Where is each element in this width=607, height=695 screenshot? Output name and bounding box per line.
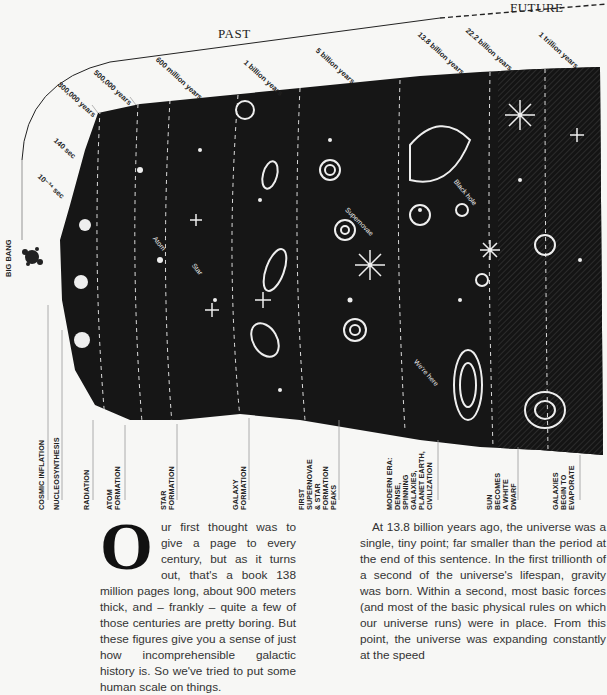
big-bang-blob [22,247,43,266]
era-label-galaxy-formation: GALAXY FORMATION [232,466,248,510]
era-label-first-supernovae: FIRST SUPERNOVAE & STAR FORMATION PEAKS [298,459,338,510]
era-label-sun-white-dwarf: SUN BECOMES A WHITE DWARF [486,473,518,510]
universe-timeline-illustration [0,0,607,500]
era-label-modern-era: MODERN ERA: DENSE, SPINNING GALAXIES, PL… [386,451,434,510]
article-column-1: Our first thought was to give a page to … [100,519,296,695]
era-label-galaxies-evaporate: GALAXIES BEGIN TO EVAPORATE [552,465,576,510]
era-label-nucleosynthesis: NUCLEOSYNTHESIS [53,437,61,510]
article-column-2: At 13.8 billion years ago, the universe … [360,519,606,663]
drop-cap: O [100,521,153,569]
era-label-star-formation: STAR FORMATION [160,466,176,510]
past-label: PAST [218,26,251,42]
era-label-cosmic-inflation: COSMIC INFLATION [38,440,46,510]
future-label: FUTURE [510,0,564,16]
era-label-radiation: RADIATION [83,470,91,510]
era-label-atom-formation: ATOM FORMATION [106,466,122,510]
big-bang-label: BIG BANG [4,240,13,278]
